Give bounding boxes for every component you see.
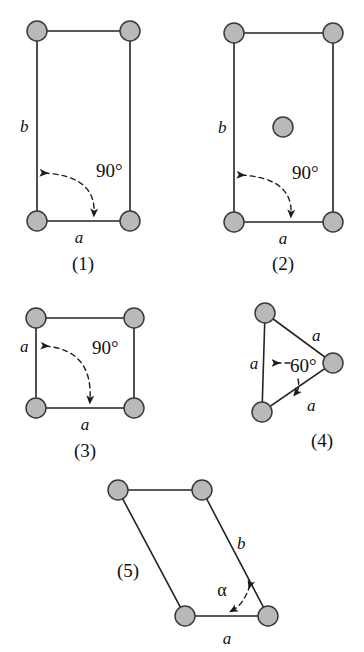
diagram-3-square: a a 90° (3) [20, 308, 144, 462]
diagram-4-label-a-left: a [250, 354, 259, 373]
diagram-5-caption: (5) [117, 560, 139, 582]
lattice-canvas: b a 90° (1) b a 90° (2) [0, 0, 364, 652]
diagram-4-label-angle: 60° [290, 355, 317, 376]
diagram-2-caption: (2) [272, 253, 294, 275]
diagram-5-angle-arc [233, 585, 250, 610]
lattice-center-node [273, 117, 293, 137]
lattice-figure: b a 90° (1) b a 90° (2) [0, 0, 364, 652]
diagram-3-label-angle: 90° [92, 337, 119, 358]
diagram-3-label-a-horizontal: a [81, 415, 90, 434]
lattice-node [252, 402, 272, 422]
diagram-4-label-a-lower-right: a [307, 396, 316, 415]
lattice-node [120, 211, 140, 231]
lattice-node [26, 308, 46, 328]
diagram-2-label-a: a [279, 229, 288, 248]
diagram-1-rectangle: b a 90° (1) [20, 21, 140, 275]
diagram-4-label-a-upper-right: a [312, 326, 321, 345]
diagram-4-triangle: a a a 60° (4) [250, 303, 343, 452]
lattice-node [120, 21, 140, 41]
diagram-1-angle-arc [44, 173, 94, 213]
diagram-5-label-angle: α [217, 580, 227, 600]
lattice-node [26, 398, 46, 418]
diagram-3-cell-outline [36, 318, 134, 408]
lattice-node [255, 303, 275, 323]
lattice-node [27, 211, 47, 231]
diagram-2-label-angle: 90° [292, 162, 319, 183]
diagram-5-label-b: b [237, 534, 246, 553]
lattice-node [124, 308, 144, 328]
lattice-node [224, 23, 244, 43]
lattice-node [323, 212, 343, 232]
diagram-4-caption: (4) [311, 430, 333, 452]
lattice-node [108, 480, 128, 500]
diagram-5-label-a: a [223, 629, 232, 648]
lattice-node [258, 606, 278, 626]
diagram-3-label-a-vertical: a [20, 337, 29, 356]
diagram-1-cell-outline [37, 31, 130, 221]
diagram-2-label-b: b [218, 118, 227, 137]
lattice-node [323, 353, 343, 373]
diagram-1-label-b: b [20, 117, 29, 136]
lattice-node [224, 212, 244, 232]
lattice-node [323, 23, 343, 43]
lattice-node [175, 606, 195, 626]
lattice-node [124, 398, 144, 418]
lattice-node [192, 480, 212, 500]
diagram-1-label-angle: 90° [96, 160, 123, 181]
diagram-1-label-a: a [75, 228, 84, 247]
diagram-5-parallelogram: b a α (5) [108, 480, 278, 648]
diagram-3-caption: (3) [74, 440, 96, 462]
diagram-2-angle-arc [241, 175, 291, 214]
diagram-1-caption: (1) [72, 253, 94, 275]
diagram-3-angle-arc [45, 346, 90, 400]
diagram-2-centered-rectangle: b a 90° (2) [218, 23, 343, 275]
lattice-node [27, 21, 47, 41]
